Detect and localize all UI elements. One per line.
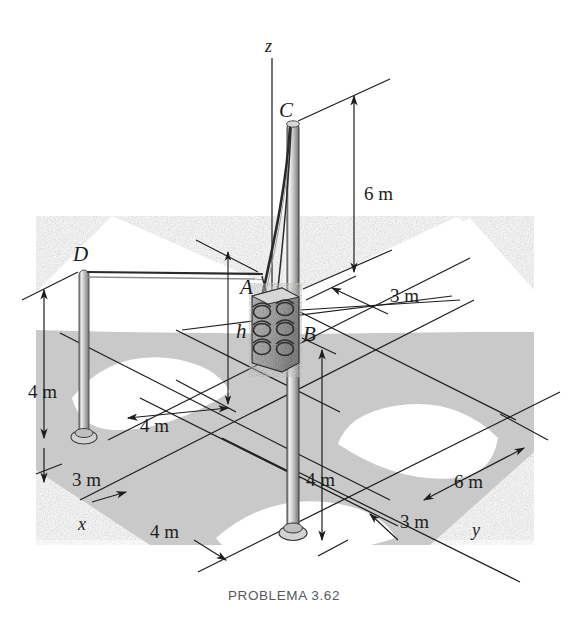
dim-3m-bottom-right-label: 3 m bbox=[400, 511, 429, 532]
dim-3m-lower-left-label: 3 m bbox=[72, 469, 101, 490]
mast-base-collar bbox=[284, 523, 303, 533]
z-axis-label: z bbox=[264, 36, 272, 56]
dim-6m-top-label: 6 m bbox=[364, 183, 393, 204]
dim-4m-mid-label: 4 m bbox=[140, 415, 169, 436]
x-axis-label: x bbox=[77, 514, 86, 534]
pole-d-shaft bbox=[79, 270, 89, 438]
point-d-label: D bbox=[72, 242, 88, 266]
point-c-label: C bbox=[279, 98, 294, 122]
pole-d-base-collar bbox=[75, 429, 93, 438]
point-a-label: A bbox=[238, 275, 253, 299]
y-axis-label: y bbox=[470, 520, 480, 540]
statics-figure: z D C B bbox=[0, 0, 568, 586]
dim-h-label: h bbox=[236, 319, 247, 343]
dim-4m-bottom-left-label: 4 m bbox=[150, 521, 179, 542]
dim-6m-top-ext-upper bbox=[298, 79, 390, 121]
figure-caption: PROBLEMA 3.62 bbox=[0, 588, 568, 603]
dim-6m-right-label: 6 m bbox=[454, 471, 483, 492]
dim-3m-upper-label: 3 m bbox=[390, 285, 419, 306]
point-b-label: B bbox=[303, 322, 316, 346]
figure-page: z D C B bbox=[0, 0, 568, 630]
dim-4m-right-label: 4 m bbox=[306, 469, 335, 490]
dim-4m-left-label: 4 m bbox=[28, 381, 57, 402]
